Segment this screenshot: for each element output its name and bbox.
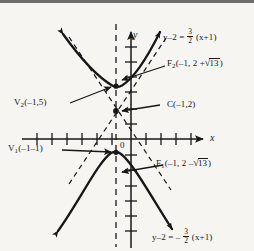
leader-vertex-lower [62, 150, 111, 152]
vertex-lower-coords: (–1–1) [18, 143, 43, 153]
focus-upper-close: ) [220, 58, 223, 68]
focus-lower-close: ) [208, 158, 211, 168]
asymptote-lower-rhs: (x+1) [192, 232, 213, 242]
asymptote-lower-lhs: y–2 = – [152, 232, 180, 242]
vertex-upper-name: V [14, 97, 21, 107]
origin-label: 0 [120, 141, 125, 150]
asymptote-lower-equation: y–2 = – 3 2 (x+1) [152, 228, 212, 244]
point-vertex-upper [113, 84, 118, 89]
vertex-upper-coords: (–1,5) [24, 97, 46, 107]
point-center [113, 108, 119, 114]
fraction-numerator: 3 [183, 228, 189, 236]
asymptote-upper-equation: y–2 = 3 2 (x+1) [163, 28, 216, 44]
focus-upper-open: (–1, 2 + [176, 58, 205, 68]
asymptote-upper-rhs: (x+1) [196, 32, 217, 42]
focus-upper-label: F2(–1, 2 +√13) [167, 58, 223, 70]
x-axis-label: x [210, 133, 215, 143]
point-vertex-lower [113, 150, 118, 155]
leader-center [122, 105, 160, 111]
asymptote-lower-fraction: 3 2 [183, 228, 189, 244]
leader-focus-upper [122, 66, 165, 80]
asymptote-upper-fraction: 3 2 [187, 28, 193, 44]
leader-vertex-upper [70, 87, 111, 103]
center-label: C(–1,2) [167, 100, 195, 109]
focus-lower-radicand: 13 [198, 158, 208, 168]
fraction-numerator: 3 [187, 28, 193, 36]
fraction-denominator: 2 [187, 36, 193, 45]
asymptote-upper-lhs: y–2 = [163, 32, 184, 42]
focus-upper-radicand: 13 [209, 58, 219, 68]
y-axis [125, 32, 137, 248]
vertex-lower-name: V [8, 143, 15, 153]
hyperbola-lower-branch [58, 152, 172, 231]
hyperbola-upper-branch [63, 32, 160, 87]
focus-lower-open: (–1, 2 – [165, 158, 194, 168]
focus-lower-label: F1(–1, 2 –√13) [156, 158, 211, 170]
vertex-upper-label: V2(–1,5) [14, 98, 47, 109]
fraction-denominator: 2 [183, 236, 189, 245]
x-axis [22, 133, 203, 145]
vertex-lower-label: V1(–1–1) [8, 144, 43, 155]
y-axis-label: y [133, 30, 138, 40]
